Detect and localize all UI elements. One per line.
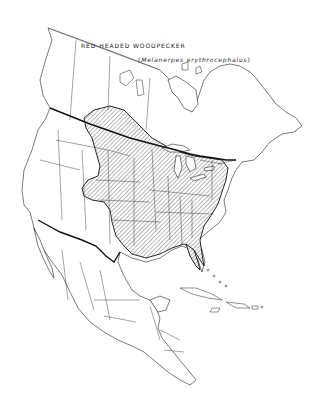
- map-title: RED-HEADED WOODPECKER: [81, 42, 185, 49]
- subtitle-close-paren: ): [248, 56, 251, 63]
- caribbean-islands: [180, 269, 263, 312]
- scientific-name: Melanerpes erythrocephalus: [141, 56, 247, 63]
- map-subtitle: (Melanerpes erythrocephalus): [138, 56, 251, 63]
